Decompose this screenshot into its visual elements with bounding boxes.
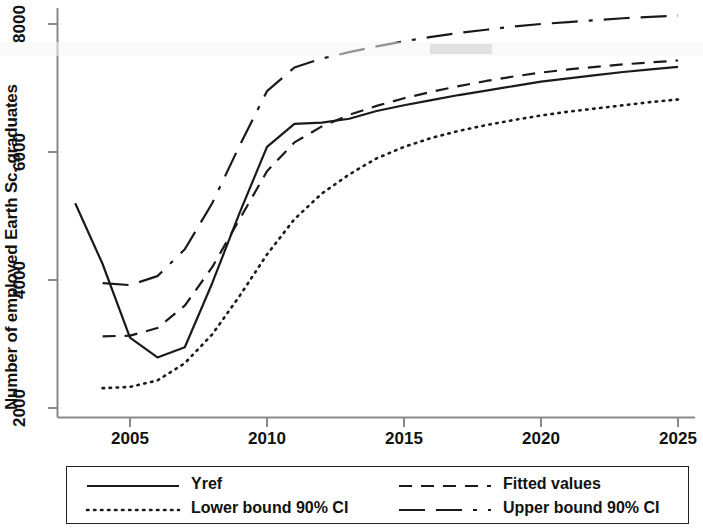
- axis-lines: [58, 8, 696, 418]
- x-axis-ticks: [130, 418, 678, 428]
- series-line-fitted-values: [103, 60, 678, 336]
- legend-label: Lower bound 90% CI: [191, 499, 348, 517]
- y-axis-ticks: [48, 24, 58, 408]
- series-line-upper-bound-90-ci: [103, 16, 678, 285]
- legend-swatch-solid-icon: [85, 478, 181, 490]
- legend-label: Fitted values: [503, 475, 601, 493]
- legend-swatch-longdash-icon: [397, 502, 493, 514]
- legend-swatch-dashed-icon: [397, 478, 493, 490]
- data-series-layer: [75, 16, 678, 388]
- chart-legend: YrefFitted valuesLower bound 90% CIUpper…: [66, 466, 689, 524]
- legend-entry-lower-bound-90-ci[interactable]: Lower bound 90% CI: [85, 497, 348, 519]
- legend-entry-fitted-values[interactable]: Fitted values: [397, 473, 601, 495]
- chart-figure: Number of employed Earth Sc. graduates 2…: [0, 0, 703, 532]
- legend-swatch-dotted-icon: [85, 502, 181, 514]
- plot-area: [0, 0, 703, 532]
- legend-entry-yref[interactable]: Yref: [85, 473, 222, 495]
- legend-entry-upper-bound-90-ci[interactable]: Upper bound 90% CI: [397, 497, 659, 519]
- legend-label: Upper bound 90% CI: [503, 499, 659, 517]
- legend-label: Yref: [191, 475, 222, 493]
